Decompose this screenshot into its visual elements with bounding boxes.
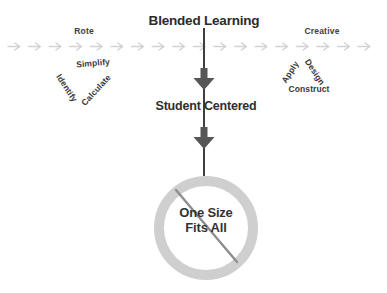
dashed-right-arrow-icon [70, 43, 82, 50]
prohibited-line1: One Size [179, 205, 232, 220]
dashed-right-arrow-icon [235, 43, 247, 50]
dashed-right-arrow-icon [90, 43, 102, 50]
skill-label-construct: Construct [288, 84, 329, 94]
dashed-right-arrow-icon [132, 43, 144, 50]
dashed-right-arrow-icon [214, 43, 226, 50]
dashed-right-arrow-icon [152, 43, 164, 50]
student-centered-label: Student Centered [156, 99, 257, 113]
dashed-right-arrow-icon [358, 43, 370, 50]
diagram-canvas: { "diagram": { "title": "Blended Learnin… [0, 0, 387, 293]
diagram-graphics [0, 0, 387, 293]
dashed-right-arrow-icon [49, 43, 61, 50]
spectrum-right-label: Creative [304, 26, 339, 36]
one-size-fits-all-label: One Size Fits All [179, 205, 232, 235]
spectrum-left-label: Rote [74, 26, 94, 36]
dashed-right-arrow-icon [296, 43, 308, 50]
spectrum-flow-arrows [8, 43, 370, 50]
diagram-title: Blended Learning [149, 13, 260, 28]
dashed-right-arrow-icon [317, 43, 329, 50]
dashed-right-arrow-icon [255, 43, 267, 50]
dashed-right-arrow-icon [111, 43, 123, 50]
dashed-right-arrow-icon [276, 43, 288, 50]
dashed-right-arrow-icon [338, 43, 350, 50]
down-arrow-icon [194, 68, 215, 90]
prohibited-line2: Fits All [179, 220, 232, 235]
dashed-right-arrow-icon [173, 43, 185, 50]
dashed-right-arrow-icon [8, 43, 20, 50]
dashed-right-arrow-icon [29, 43, 41, 50]
down-arrow-icon [194, 127, 215, 149]
